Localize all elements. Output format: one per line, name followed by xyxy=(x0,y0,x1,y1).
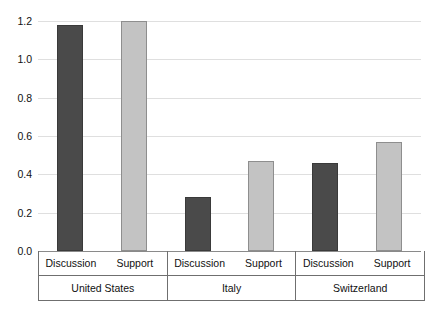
x-axis-subcategory-label: Discussion xyxy=(168,251,232,275)
y-axis-tick-label: 0.4 xyxy=(0,169,32,180)
bars-layer xyxy=(38,0,421,251)
x-axis-subcategory-label: Discussion xyxy=(39,251,103,275)
bar xyxy=(248,161,274,251)
bar xyxy=(57,25,83,251)
x-axis-subcategory-row: DiscussionSupport xyxy=(168,251,296,276)
bar xyxy=(185,197,211,251)
bar-chart: 0.00.20.40.60.81.01.2 DiscussionSupportU… xyxy=(0,0,440,309)
x-axis-group: DiscussionSupportItaly xyxy=(168,251,297,300)
x-axis-subcategory-label: Support xyxy=(360,251,424,275)
bar xyxy=(121,21,147,251)
x-axis-group: DiscussionSupportSwitzerland xyxy=(296,251,424,300)
x-axis-group-label: Switzerland xyxy=(296,276,424,300)
x-axis-subcategory-label: Discussion xyxy=(296,251,360,275)
bar xyxy=(312,163,338,251)
x-axis-group-label: United States xyxy=(39,276,167,300)
y-axis-tick-label: 0.2 xyxy=(0,207,32,218)
x-axis-group: DiscussionSupportUnited States xyxy=(39,251,168,300)
x-axis-label-table: DiscussionSupportUnited StatesDiscussion… xyxy=(38,251,425,301)
x-axis-group-label: Italy xyxy=(168,276,296,300)
bar xyxy=(376,142,402,251)
x-axis-subcategory-row: DiscussionSupport xyxy=(296,251,424,276)
y-axis-tick-label: 1.2 xyxy=(0,16,32,27)
y-axis-tick-label: 0.0 xyxy=(0,246,32,257)
y-axis-tick-label: 0.8 xyxy=(0,92,32,103)
y-axis-tick-label: 1.0 xyxy=(0,54,32,65)
x-axis-subcategory-label: Support xyxy=(103,251,167,275)
x-axis-subcategory-row: DiscussionSupport xyxy=(39,251,167,276)
x-axis-subcategory-label: Support xyxy=(232,251,296,275)
y-axis-tick-label: 0.6 xyxy=(0,131,32,142)
